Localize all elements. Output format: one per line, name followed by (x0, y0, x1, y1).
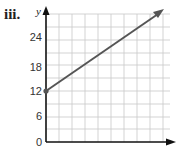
x-axis-arrow-icon (166, 139, 176, 146)
data-line (43, 9, 164, 94)
start-point (43, 88, 48, 93)
y-axis-arrow-icon (43, 6, 50, 15)
chart-plot (0, 0, 178, 147)
